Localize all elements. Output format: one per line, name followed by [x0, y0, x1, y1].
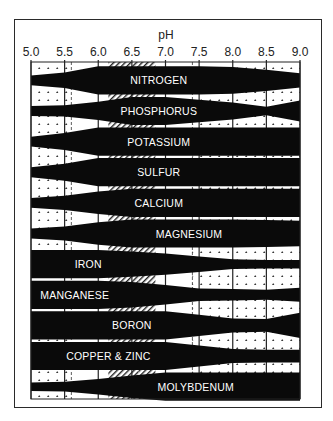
x-tick-label: 5.0 — [23, 45, 40, 59]
x-axis-ticks: 5.05.56.06.57.07.58.08.59.0 — [23, 45, 309, 59]
x-tick-label: 8.5 — [258, 45, 275, 59]
x-tick-label: 8.0 — [224, 45, 241, 59]
band-label: MANGANESE — [40, 289, 109, 301]
band-label: CALCIUM — [134, 197, 183, 209]
x-tick-label: 5.5 — [56, 45, 73, 59]
band-label: PHOSPHORUS — [120, 105, 197, 117]
x-tick-label: 6.0 — [90, 45, 107, 59]
band-label: IRON — [75, 258, 102, 270]
x-tick-label: 6.5 — [124, 45, 141, 59]
band-label: SULFUR — [137, 166, 180, 178]
band-label: MAGNESIUM — [156, 228, 223, 240]
band-label: BORON — [112, 319, 152, 331]
x-tick-label: 7.0 — [157, 45, 174, 59]
x-tick-label: 7.5 — [191, 45, 208, 59]
band-label: COPPER & ZINC — [66, 350, 150, 362]
band-label: POTASSIUM — [127, 136, 190, 148]
x-axis-title: pH — [158, 28, 173, 42]
soil-ph-nutrient-availability-chart: pH 5.05.56.06.57.07.58.08.59.0 NITROGENP… — [0, 0, 333, 421]
band-label: NITROGEN — [130, 74, 187, 86]
band-label: MOLYBDENUM — [158, 381, 234, 393]
x-tick-label: 9.0 — [292, 45, 309, 59]
